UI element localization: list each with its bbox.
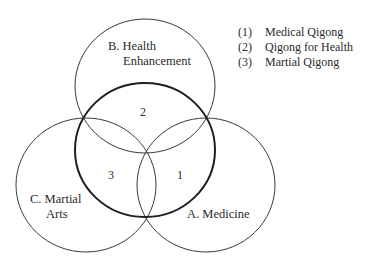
region-number-1: 1 bbox=[177, 168, 183, 183]
legend-item: (3) Martial Qigong bbox=[238, 55, 353, 70]
legend-item: (2) Qigong for Health bbox=[238, 40, 353, 55]
circle-c-label-line1: C. Martial bbox=[30, 192, 81, 207]
circle-b-label-line1: B. Health bbox=[108, 39, 156, 54]
circle-a-label: A. Medicine bbox=[187, 207, 249, 222]
legend-item: (1) Medical Qigong bbox=[238, 25, 353, 40]
circle-c-label-line2: Arts bbox=[46, 207, 68, 222]
legend-text: Qigong for Health bbox=[265, 40, 353, 55]
region-number-2: 2 bbox=[140, 105, 146, 120]
legend-text: Martial Qigong bbox=[265, 55, 339, 70]
legend-key: (1) bbox=[238, 25, 265, 40]
region-number-3: 3 bbox=[108, 168, 114, 183]
legend: (1) Medical Qigong (2) Qigong for Health… bbox=[238, 25, 353, 70]
legend-text: Medical Qigong bbox=[265, 25, 343, 40]
circle-b-label-line2: Enhancement bbox=[123, 54, 191, 69]
legend-key: (2) bbox=[238, 40, 265, 55]
circle-qigong-bold bbox=[75, 83, 215, 217]
legend-key: (3) bbox=[238, 55, 265, 70]
